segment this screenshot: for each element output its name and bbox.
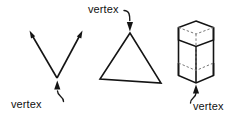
triangle-outline <box>100 33 161 83</box>
prism-hidden-top-back <box>179 28 214 35</box>
angle-vertex-pointer <box>54 81 63 102</box>
triangle-leader-line <box>124 11 130 21</box>
angle-figure <box>30 31 83 79</box>
geometry-diagram: vertex vertex <box>0 0 242 117</box>
prism-vertex-label: vertex <box>193 100 224 112</box>
angle-ray-right-arrowhead <box>77 31 83 39</box>
angle-ray-right <box>57 36 80 78</box>
diagram-canvas: vertex vertex <box>0 0 242 117</box>
triangle-vertex-label: vertex <box>88 3 119 15</box>
angle-vertex-label: vertex <box>11 98 42 110</box>
prism-leader-arrowhead <box>193 85 199 94</box>
angle-ray-left <box>33 36 58 78</box>
triangle-leader-arrowhead <box>127 22 133 32</box>
angle-leader-line <box>58 91 64 102</box>
triangle-figure <box>100 33 161 83</box>
angle-ray-left-arrowhead <box>30 31 36 39</box>
triangle-vertex-pointer <box>124 11 133 32</box>
angle-leader-arrowhead <box>54 81 60 90</box>
hexagonal-prism-figure <box>179 21 214 83</box>
